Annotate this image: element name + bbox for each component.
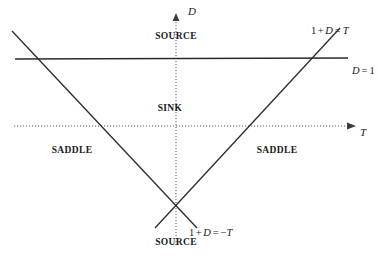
math-token-plus: + <box>318 25 324 36</box>
math-token-eq2: = <box>362 65 368 76</box>
math-token-eq: = <box>335 25 341 36</box>
region-label-source-bottom: SOURCE <box>155 238 197 248</box>
region-label-sink: SINK <box>158 104 183 114</box>
d-axis-group <box>173 13 180 247</box>
region-label-source-top: SOURCE <box>155 32 197 42</box>
d-axis-label: D <box>188 6 196 17</box>
math-token-1: 1 <box>311 25 316 36</box>
math-token-t: T <box>343 25 349 36</box>
line-label-d-equals-1: D=1 <box>352 66 375 77</box>
line-one-plus-d-equals-minus-t <box>12 31 197 228</box>
math-token-one: 1 <box>370 65 375 76</box>
figure-canvas: D T SOURCE SINK SADDLE SADDLE SOURCE 1+D… <box>0 0 379 256</box>
math-token-1b: 1 <box>189 227 194 238</box>
t-axis-group <box>14 123 356 130</box>
math-token-plusb: + <box>196 227 202 238</box>
region-label-saddle-left: SADDLE <box>52 146 93 156</box>
t-axis-arrowhead <box>347 123 356 130</box>
t-axis-label: T <box>360 127 366 138</box>
line-label-one-plus-d-equals-minus-t: 1+D=−T <box>189 228 232 239</box>
d-axis-arrowhead <box>173 13 180 21</box>
math-token-d2: D <box>352 65 360 76</box>
region-label-saddle-right: SADDLE <box>257 146 298 156</box>
math-token-db: D <box>203 227 211 238</box>
math-token-eqb: = <box>213 227 219 238</box>
math-token-tb: T <box>227 227 233 238</box>
line-label-one-plus-d-equals-t: 1+D=T <box>311 26 349 37</box>
line-d-equals-1 <box>15 58 348 59</box>
math-token-d: D <box>325 25 333 36</box>
